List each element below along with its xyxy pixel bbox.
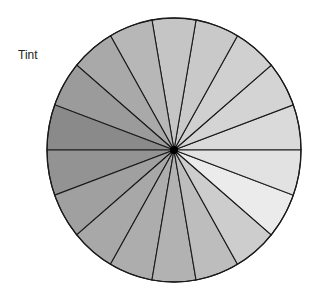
tint-wheel [0, 0, 311, 296]
wheel-center-dot [170, 146, 178, 154]
